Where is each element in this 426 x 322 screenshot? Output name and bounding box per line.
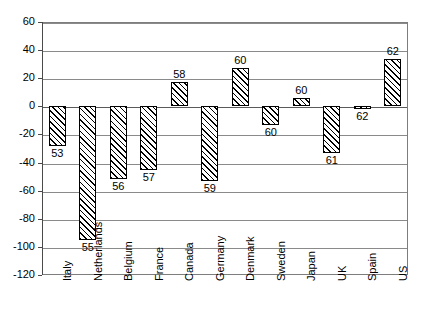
bar xyxy=(384,59,401,107)
gridline xyxy=(43,135,407,136)
data-label: 62 xyxy=(347,111,377,122)
bar xyxy=(171,82,188,106)
data-label: 60 xyxy=(286,85,316,96)
x-tick-label: US xyxy=(398,266,409,281)
bar-chart: 6040200-20-40-60-80-100-120 535556575859… xyxy=(0,0,426,322)
y-tick-mark xyxy=(38,219,42,220)
y-tick-label: -80 xyxy=(2,213,35,224)
data-label: 60 xyxy=(256,127,286,138)
gridline xyxy=(43,220,407,221)
y-tick-label: 60 xyxy=(2,16,35,27)
x-tick-label: Denmark xyxy=(245,236,256,281)
x-tick-label: Spain xyxy=(367,253,378,281)
y-tick-label: -20 xyxy=(2,128,35,139)
y-tick-label: -60 xyxy=(2,185,35,196)
x-tick-label: Japan xyxy=(306,251,317,281)
data-label: 57 xyxy=(134,172,164,183)
y-tick-label: -40 xyxy=(2,157,35,168)
data-label: 56 xyxy=(103,181,133,192)
gridline xyxy=(43,164,407,165)
data-label: 62 xyxy=(378,46,408,57)
data-label: 53 xyxy=(42,148,72,159)
y-tick-label: -120 xyxy=(2,269,35,280)
x-tick-label: UK xyxy=(337,266,348,281)
x-tick-label: Sweden xyxy=(276,241,287,281)
y-tick-mark xyxy=(38,106,42,107)
bar xyxy=(232,68,249,106)
bar xyxy=(262,106,279,124)
bar xyxy=(354,106,371,109)
gridline xyxy=(43,51,407,52)
y-tick-mark xyxy=(38,163,42,164)
y-tick-mark xyxy=(38,50,42,51)
bar xyxy=(140,106,157,169)
x-tick-label: France xyxy=(154,247,165,281)
y-tick-mark xyxy=(38,134,42,135)
bar xyxy=(49,106,66,145)
x-tick-label: Italy xyxy=(62,261,73,281)
gridline xyxy=(43,23,407,24)
gridline xyxy=(43,79,407,80)
y-tick-mark xyxy=(38,191,42,192)
y-tick-label: 40 xyxy=(2,44,35,55)
y-tick-label: -100 xyxy=(2,241,35,252)
data-label: 59 xyxy=(195,183,225,194)
y-tick-mark xyxy=(38,275,42,276)
y-tick-mark xyxy=(38,78,42,79)
bar xyxy=(201,106,218,180)
y-tick-mark xyxy=(38,22,42,23)
bar xyxy=(323,106,340,152)
bar xyxy=(79,106,96,240)
data-label: 61 xyxy=(317,155,347,166)
x-tick-label: Netherlands xyxy=(93,222,104,281)
x-tick-label: Belgium xyxy=(123,241,134,281)
data-label: 58 xyxy=(164,69,194,80)
x-tick-label: Germany xyxy=(215,236,226,281)
y-tick-label: 0 xyxy=(2,100,35,111)
bar xyxy=(110,106,127,179)
gridline xyxy=(43,107,407,108)
gridline xyxy=(43,192,407,193)
y-tick-mark xyxy=(38,247,42,248)
y-tick-label: 20 xyxy=(2,72,35,83)
bar xyxy=(293,98,310,106)
data-label: 60 xyxy=(225,55,255,66)
x-tick-label: Canada xyxy=(184,242,195,281)
